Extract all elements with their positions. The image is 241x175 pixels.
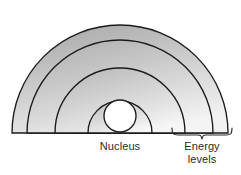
nucleus-label: Nucleus bbox=[72, 140, 168, 153]
energy-levels-label-line2: levels bbox=[168, 153, 236, 166]
nucleus-circle bbox=[104, 100, 136, 132]
atom-diagram: Nucleus Energy levels bbox=[0, 0, 241, 175]
nucleus-label-text: Nucleus bbox=[72, 140, 168, 153]
energy-levels-label-line1: Energy bbox=[168, 140, 236, 153]
energy-levels-label: Energy levels bbox=[168, 140, 236, 166]
